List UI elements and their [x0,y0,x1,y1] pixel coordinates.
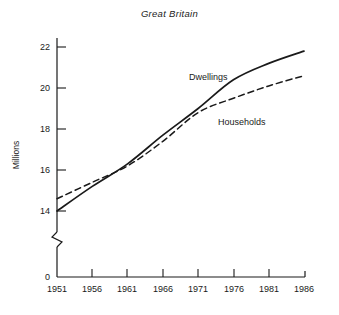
series-label-households: Households [218,117,266,127]
y-axis-break-marker [52,232,62,247]
plot-area: 22 20 18 16 14 0 1951 1956 1961 1966 197… [0,0,339,315]
x-tick-label-1961: 1961 [117,284,137,294]
series-label-dwellings: Dwellings [189,72,228,82]
y-tick-label-22: 22 [40,42,50,52]
y-tick-label-18: 18 [40,124,50,134]
chart-figure: Great Britain Millions 22 20 18 16 14 0 [0,0,339,315]
y-tick-marks [57,47,66,211]
x-tick-label-1966: 1966 [153,284,173,294]
x-tick-label-1951: 1951 [47,284,67,294]
x-tick-label-1986: 1986 [294,284,314,294]
series-line-dwellings [57,51,304,211]
x-tick-label-1981: 1981 [259,284,279,294]
series-line-households [57,76,304,199]
x-tick-label-1956: 1956 [82,284,102,294]
x-tick-label-1976: 1976 [224,284,244,294]
x-tick-marks [92,269,269,277]
x-tick-label-1971: 1971 [188,284,208,294]
y-tick-label-16: 16 [40,165,50,175]
y-tick-label-14: 14 [40,206,50,216]
y-tick-label-0: 0 [45,272,50,282]
y-tick-label-20: 20 [40,83,50,93]
